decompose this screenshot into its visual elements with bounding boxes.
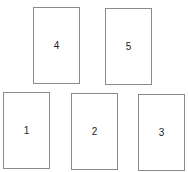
box-label: 4 <box>54 40 60 51</box>
box-2: 2 <box>71 93 118 170</box>
box-label: 3 <box>159 127 165 138</box>
box-1: 1 <box>3 92 50 169</box>
box-label: 2 <box>92 126 98 137</box>
box-3: 3 <box>138 94 185 171</box>
box-label: 5 <box>126 41 132 52</box>
box-5: 5 <box>105 8 152 85</box>
box-label: 1 <box>24 125 30 136</box>
box-4: 4 <box>33 7 80 84</box>
